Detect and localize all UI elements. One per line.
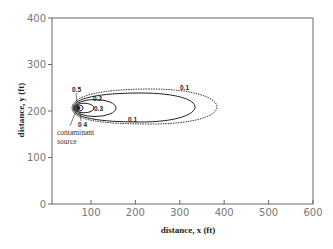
y-axis-title: distance, y (ft) (16, 83, 26, 138)
x-axis-title: distance, x (ft) (161, 225, 216, 235)
x-axis: 100 200 300 400 500 600 distance, x (ft) (81, 200, 322, 235)
y-tick-label: 0 (40, 199, 46, 210)
x-tick-label: 600 (303, 207, 322, 218)
contour-label-0.3: 0.3 (94, 105, 103, 112)
contour-chart: 0 100 200 300 400 distance, y (ft) 100 2… (0, 0, 333, 249)
y-tick-label: 300 (27, 59, 46, 70)
source-marker (77, 107, 79, 109)
x-tick-label: 400 (215, 207, 234, 218)
y-tick-label: 200 (27, 106, 46, 117)
source-label-line1: contaminant (57, 128, 95, 137)
contour-label-0.2: 0.2 (93, 95, 102, 102)
x-tick-label: 200 (126, 207, 145, 218)
contour-label-0.1-top: 0.1 (180, 84, 189, 91)
y-tick-label: 400 (27, 13, 46, 24)
y-tick-label: 100 (27, 152, 46, 163)
contour-label-0.1-bottom: 0.1 (128, 116, 137, 123)
contour-label-0.4: 0 4 (78, 121, 87, 128)
source-label-line2: source (57, 137, 77, 146)
contour-labels: 0.5 0.2 0.3 0 4 0.1 0.1 (72, 84, 189, 128)
contour-label-0.5: 0.5 (72, 86, 81, 93)
x-tick-label: 100 (81, 207, 100, 218)
x-tick-label: 300 (170, 207, 189, 218)
x-tick-label: 500 (259, 207, 278, 218)
y-axis: 0 100 200 300 400 distance, y (ft) (16, 13, 52, 210)
